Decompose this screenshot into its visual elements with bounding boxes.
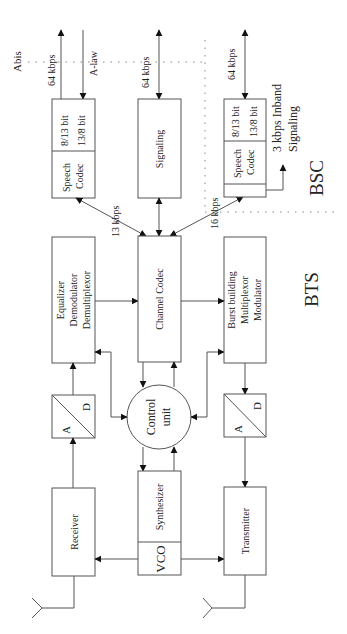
svg-text:Signaling: Signaling [154,130,165,168]
svg-text:13/8 bit: 13/8 bit [76,115,87,146]
svg-text:unit: unit [159,407,173,426]
svg-text:Codec: Codec [74,163,85,189]
svg-text:D: D [80,403,92,411]
svg-text:Codec: Codec [245,149,256,175]
bsc-label: BSC [306,160,327,196]
svg-text:8/13 bit: 8/13 bit [59,115,70,146]
bts-block-diagram: Abis BSC BTS 64 kbps A-law 8/13 bit 13/8… [0,0,347,634]
burst-control-link [191,352,224,417]
svg-text:Multiplexor: Multiplexor [239,275,250,323]
equalizer-block: Equalizer Demodulator Demultiplexor [52,237,95,363]
inband-label-line1: 3 kbps Inband [270,84,284,152]
svg-text:Equalizer: Equalizer [55,280,66,319]
svg-text:Control: Control [144,398,158,435]
svg-text:8/13 bit: 8/13 bit [230,106,241,137]
svg-text:Speech: Speech [61,163,72,192]
svg-text:13/8 bit: 13/8 bit [248,106,259,137]
channel-codec-block: Channel Codec [138,236,181,362]
svg-text:Demultiplexor: Demultiplexor [81,270,92,329]
svg-text:Receiver: Receiver [69,514,80,550]
equalizer-control-link [95,352,127,417]
svg-text:Burst building: Burst building [226,271,237,329]
ad-converter-tx: A D [224,394,266,437]
receiver-block: Receiver [52,488,95,576]
svg-text:Synthesizer: Synthesizer [154,483,165,530]
13kbps-label: 13 kbps [110,206,121,238]
signaling-64kbps-label: 64 kbps [140,57,151,89]
inband-label-line2: Signaling [286,106,300,152]
vco-label: VCO [153,545,168,572]
signaling-block: Signaling [138,99,181,198]
bsc-64kbps-label: 64 kbps [226,49,237,81]
transmitter-block: Transmitter [224,487,266,575]
ad-converter-rx: A D [52,395,95,438]
inband-signaling-arrow [266,165,283,190]
svg-text:Transmitter: Transmitter [240,507,251,554]
abis-label: Abis [11,51,23,72]
synthesizer-block: Synthesizer VCO [138,471,181,575]
burst-building-block: Burst building Multiplexor Modulator [224,237,266,363]
svg-text:A: A [60,426,72,434]
speech-codec-bts-block: 8/13 bit 13/8 bit Speech Codec [52,99,95,198]
svg-text:D: D [251,402,263,410]
tx-antenna-icon [203,575,245,618]
alaw-label: A-law [88,50,99,76]
control-unit: Control unit [127,385,191,449]
svg-text:Speech: Speech [232,149,243,178]
svg-text:Modulator: Modulator [252,278,263,321]
svg-text:A: A [232,425,244,433]
rx-antenna-icon [32,576,74,618]
speech-codec-bsc-block: 8/13 bit 13/8 bit Speech Codec [224,99,266,197]
16kbps-arrow [170,197,243,236]
speech-64kbps-label: 64 kbps [46,55,57,87]
bts-label: BTS [301,272,322,307]
svg-text:Demodulator: Demodulator [68,273,79,326]
16kbps-label: 16 kbps [209,198,220,230]
svg-text:Channel Codec: Channel Codec [154,268,165,330]
